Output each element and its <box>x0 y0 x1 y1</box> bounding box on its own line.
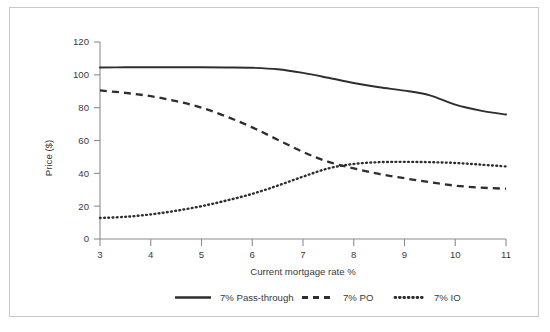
series-line-solid <box>100 67 506 114</box>
x-tick-label: 3 <box>97 249 102 260</box>
y-tick-label: 60 <box>78 135 89 146</box>
figure-frame: 020406080100120 34567891011 Price ($) Cu… <box>9 7 539 317</box>
y-axis-title: Price ($) <box>43 140 54 176</box>
y-tick-label: 120 <box>73 36 89 47</box>
legend-label: 7% PO <box>343 292 373 303</box>
series-line-dotted <box>100 162 506 218</box>
legend-label: 7% Pass-through <box>220 292 294 303</box>
x-tick-label: 7 <box>300 249 305 260</box>
series-group <box>100 67 506 218</box>
x-tick-label: 5 <box>199 249 204 260</box>
y-tick-label: 20 <box>78 201 89 212</box>
y-axis: 020406080100120 <box>73 36 100 244</box>
x-axis: 34567891011 <box>97 239 511 260</box>
y-tick-label: 0 <box>84 233 89 244</box>
x-tick-label: 4 <box>148 249 154 260</box>
x-tick-label: 9 <box>402 249 407 260</box>
x-axis-title: Current mortgage rate % <box>250 266 356 277</box>
y-tick-label: 80 <box>78 102 89 113</box>
chart-legend: 7% Pass-through7% PO7% IO <box>175 292 461 303</box>
y-tick-label: 40 <box>78 168 89 179</box>
chart-canvas: 020406080100120 34567891011 Price ($) Cu… <box>10 8 540 318</box>
x-tick-label: 10 <box>450 249 461 260</box>
y-tick-label: 100 <box>73 69 89 80</box>
x-tick-group: 34567891011 <box>97 239 511 260</box>
y-tick-group: 020406080100120 <box>73 36 100 244</box>
x-tick-label: 8 <box>351 249 356 260</box>
x-tick-label: 6 <box>250 249 255 260</box>
x-tick-label: 11 <box>501 249 511 260</box>
series-line-dashed <box>100 90 506 188</box>
legend-label: 7% IO <box>434 292 461 303</box>
